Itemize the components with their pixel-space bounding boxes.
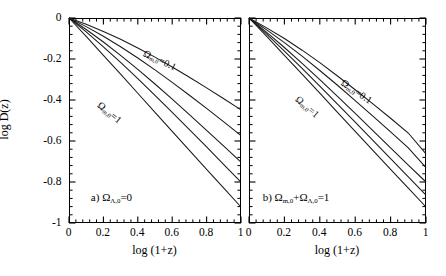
x-tick-label-a-3: 0.6 [165,227,179,239]
panel-a-annotation: a) ΩΛ,0=0 [91,191,132,204]
figure-canvas: log D(z) log (1+z) log (1+z) 0-0.2-0.4-0… [0,0,446,276]
x-tick-label-b-5: 1 [423,227,429,239]
curve-m00.1 [249,18,426,154]
curve-m00.6 [69,18,241,182]
x-tick-label-a-1: 0.2 [96,227,110,239]
panel-a-omega-subscript: Λ,0 [110,196,120,203]
panel-b-tag: b) [263,191,272,203]
x-axis-label-panel-a: log (1+z) [132,243,176,258]
y-tick-label-5: -1 [52,217,62,229]
curve-m00.6 [249,18,426,195]
x-tick-label-a-4: 0.8 [199,227,213,239]
panel-b-annotation: b) Ωm,0+ΩΛ,0=1 [263,191,330,204]
y-tick-label-3: -0.6 [43,135,61,147]
x-tick-label-a-0: 0 [66,227,72,239]
panel-b-omega-lambda-icon: Ω [299,191,307,203]
y-tick-label-4: -0.8 [43,176,61,188]
y-axis-label: log D(z) [0,99,12,139]
curve-m01 [69,18,241,207]
panel-a-tag: a) [91,191,100,203]
x-tick-label-b-0: 0 [246,227,252,239]
curve-m01 [249,18,426,207]
y-tick-label-1: -0.2 [43,53,61,65]
y-tick-label-2: -0.4 [43,94,61,106]
x-tick-label-b-4: 0.8 [383,227,397,239]
x-axis-label-panel-b: log (1+z) [315,243,359,258]
x-tick-label-b-3: 0.6 [348,227,362,239]
x-tick-label-b-2: 0.4 [312,227,326,239]
panel-a-condition-value: =0 [120,191,132,203]
x-tick-label-a-2: 0.4 [130,227,144,239]
y-tick-label-0: 0 [56,12,62,24]
panel-b-condition-value: =1 [318,191,330,203]
panel-b-omega-lambda-subscript: Λ,0 [308,196,318,203]
x-tick-label-b-1: 0.2 [277,227,291,239]
x-tick-label-a-5: 1 [238,227,244,239]
panel-b-omega-m-icon: Ω [275,191,283,203]
panel-b-omega-m-subscript: m,0 [283,196,293,203]
